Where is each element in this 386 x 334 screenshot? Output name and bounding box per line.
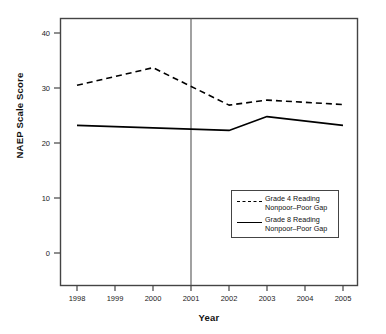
x-axis-title: Year bbox=[60, 312, 358, 323]
x-tick-label-1999: 1999 bbox=[95, 294, 135, 303]
x-tick-label-2004: 2004 bbox=[285, 294, 325, 303]
chart-canvas bbox=[0, 0, 386, 334]
y-tick-label-30: 30 bbox=[26, 84, 50, 93]
legend-label-grade-8-line2: Nonpoor–Poor Gap bbox=[265, 224, 327, 233]
solid-line-swatch-icon bbox=[237, 222, 262, 223]
x-tick-label-1998: 1998 bbox=[57, 294, 97, 303]
legend-label-grade-8: Grade 8 Reading Nonpoor–Poor Gap bbox=[265, 215, 327, 233]
y-tick-label-10: 10 bbox=[26, 194, 50, 203]
chart-legend: Grade 4 Reading Nonpoor–Poor Gap Grade 8… bbox=[231, 190, 339, 238]
x-tick-label-2002: 2002 bbox=[209, 294, 249, 303]
chart-figure: 40 30 20 10 0 1998 1999 2000 2001 2002 2… bbox=[0, 0, 386, 334]
y-tick-marks bbox=[54, 33, 60, 253]
x-tick-label-2003: 2003 bbox=[247, 294, 287, 303]
series-line-grade-8 bbox=[77, 117, 343, 131]
legend-label-grade-8-line1: Grade 8 Reading bbox=[265, 215, 320, 224]
y-tick-label-20: 20 bbox=[26, 139, 50, 148]
x-tick-label-2000: 2000 bbox=[133, 294, 173, 303]
x-tick-label-2001: 2001 bbox=[171, 294, 211, 303]
y-tick-label-40: 40 bbox=[26, 29, 50, 38]
y-axis-title: NAEP Scale Score bbox=[14, 51, 25, 181]
x-tick-label-2005: 2005 bbox=[323, 294, 363, 303]
legend-label-grade-4-line2: Nonpoor–Poor Gap bbox=[265, 203, 327, 212]
dashed-line-swatch-icon bbox=[237, 201, 262, 202]
y-tick-label-0: 0 bbox=[26, 249, 50, 258]
series-line-grade-4 bbox=[77, 68, 343, 105]
plot-border bbox=[61, 19, 358, 286]
legend-label-grade-4: Grade 4 Reading Nonpoor–Poor Gap bbox=[265, 194, 327, 212]
legend-label-grade-4-line1: Grade 4 Reading bbox=[265, 194, 320, 203]
